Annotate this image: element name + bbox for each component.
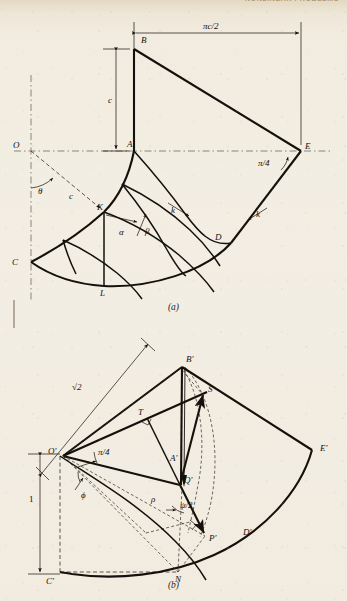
radius-c-dashed [31, 151, 100, 208]
label-D-prime: D′ [242, 527, 252, 537]
label-A-prime: A′ [169, 453, 178, 463]
figure-a-svg: O A B C D E K L c c θ α β k k πc/2 π/4 [0, 0, 347, 310]
right-angle-mark-P-prime [190, 520, 196, 530]
label-c-vertical: c [108, 95, 112, 105]
figure-b: O′ A′ B′ C′ D′ E′ P′ Q′ S T N √2 1 ρ ϕ π… [0, 330, 347, 595]
dashed-N-P-prime [178, 536, 205, 572]
curve-E-prime-D-prime-C-prime [60, 450, 312, 577]
label-beta: β [144, 226, 150, 236]
label-S: S [208, 384, 213, 394]
dimension-tick-sqrt-2-bottom [36, 467, 49, 480]
label-one: 1 [29, 494, 34, 504]
label-rho: ρ [150, 494, 156, 504]
label-B: B [141, 35, 147, 45]
label-D: D [214, 232, 222, 242]
label-P-prime: P′ [208, 533, 217, 543]
direction-arrow-alpha [106, 215, 137, 222]
label-L: L [99, 288, 105, 298]
label-theta: θ [38, 186, 43, 196]
label-K: K [96, 202, 104, 212]
dashed-O-prime-psi-chord [63, 456, 146, 533]
label-k-outer: k [256, 209, 261, 219]
figure-a: O A B C D E K L c c θ α β k k πc/2 π/4 [0, 0, 347, 310]
label-B-prime: B′ [186, 354, 194, 364]
label-c-diagonal: c [69, 191, 73, 201]
label-pi-4-b: π/4 [98, 447, 110, 457]
curve-AK-inner-boundary [104, 151, 134, 212]
label-pi-c-over-2: πc/2 [203, 21, 219, 31]
figure-b-caption: (b) [0, 580, 347, 590]
label-C: C [12, 257, 19, 267]
curve-DC-outer-boundary [31, 243, 231, 286]
dashed-psi-chord [146, 522, 190, 533]
segment-B-prime-Q-prime-vertical [181, 367, 182, 485]
figure-b-svg: O′ A′ B′ C′ D′ E′ P′ Q′ S T N √2 1 ρ ϕ π… [0, 330, 347, 595]
dimension-tick-sqrt-2-top [141, 338, 155, 351]
beta-line-2 [122, 184, 186, 276]
label-pi-over-4: π/4 [258, 158, 270, 168]
segment-T-Q-prime [147, 418, 180, 485]
label-phi: ϕ [81, 490, 86, 500]
segment-O-prime-Q-prime [63, 456, 180, 485]
dashed-O-prime-N [63, 456, 178, 572]
label-k-inner: k [171, 205, 176, 215]
label-A: A [126, 139, 133, 149]
label-sqrt-2: √2 [72, 382, 82, 392]
label-E-prime: E′ [319, 443, 328, 453]
label-alpha: α [119, 227, 124, 237]
angle-arc-phi [78, 472, 80, 482]
label-psi-2: ψ/2 [180, 500, 193, 510]
figure-a-caption: (a) [0, 302, 347, 312]
label-Q-prime: Q′ [184, 475, 193, 485]
vector-Q-prime-to-S [180, 395, 203, 485]
label-E: E [304, 141, 311, 151]
label-T: T [138, 407, 144, 417]
page-canvas: NONLINEAR PROBLEMS [0, 0, 347, 601]
label-O-prime: O′ [48, 446, 57, 456]
segment-BE [134, 49, 301, 151]
dimension-line-sqrt-2 [42, 344, 148, 473]
label-O: O [13, 140, 20, 150]
